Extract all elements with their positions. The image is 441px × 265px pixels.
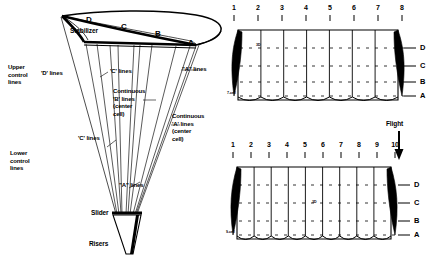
seven-cell-center-marker: 3D <box>256 42 260 50</box>
slider-label: Slider <box>91 209 108 217</box>
lower-control-lines-label: Lower control lines <box>10 150 30 173</box>
nine-cell-row-label-d: D <box>414 181 419 189</box>
seven-cell-row-label-b: B <box>420 78 425 86</box>
d-lines-label: 'D' lines <box>41 70 63 78</box>
c-lines-lower-label: 'C' lines <box>78 135 100 143</box>
leader-c-lines-lower <box>107 140 116 147</box>
seven-cell-row-leaders <box>404 48 416 96</box>
continuous-b-lines-label: Continuous 'B' lines (center cell) <box>113 88 145 118</box>
nine-cell-count-label: 9-cell <box>226 229 235 237</box>
stabilizer-label: Stabilizer <box>70 27 98 35</box>
canopy-line-diagram: Upper control lines 'D' lines 'C' lines … <box>0 0 441 265</box>
nine-cell-planform-drawing <box>228 141 441 263</box>
nine-cell-row-label-a: A <box>414 231 419 239</box>
nine-cell-center-marker: 3D <box>312 199 316 207</box>
seven-cell-row-label-c: C <box>420 62 425 70</box>
seven-cell-row-label-a: A <box>420 92 425 100</box>
nine-cell-row-label-c: C <box>414 199 419 207</box>
rib-tick-group <box>234 15 402 21</box>
rib-tick-group <box>233 152 395 158</box>
seven-cell-planform: 1 2 3 4 5 6 7 8 <box>228 4 441 122</box>
seven-cell-body <box>238 30 398 100</box>
canopy-row-label-c: C <box>121 22 127 31</box>
seven-cell-count-label: 7-cell <box>227 90 236 98</box>
upper-control-line <box>61 17 116 214</box>
canopy-row-label-d: D <box>86 15 92 24</box>
seven-cell-row-label-d: D <box>420 44 425 52</box>
nine-cell-row-label-b: B <box>414 217 419 225</box>
c-lines-upper-label: 'C' lines <box>110 68 132 76</box>
continuous-a-lines-label: Continuous 'A' lines (center cell) <box>172 113 204 143</box>
canopy-row-label-b: B <box>155 29 161 38</box>
seven-cell-planform-drawing <box>228 4 441 122</box>
canopy-right-tip <box>196 31 221 45</box>
nine-cell-planform: 1 2 3 4 5 6 7 8 9 10 <box>228 141 441 263</box>
a-lines-lower-label: "A" lines <box>119 182 143 190</box>
nine-cell-row-leaders <box>398 185 410 235</box>
upper-control-lines-label: Upper control lines <box>8 64 28 87</box>
canopy-row-label-a: A <box>188 38 194 47</box>
a-lines-upper-label: "A" lines <box>182 66 206 74</box>
risers-label: Risers <box>89 240 108 248</box>
